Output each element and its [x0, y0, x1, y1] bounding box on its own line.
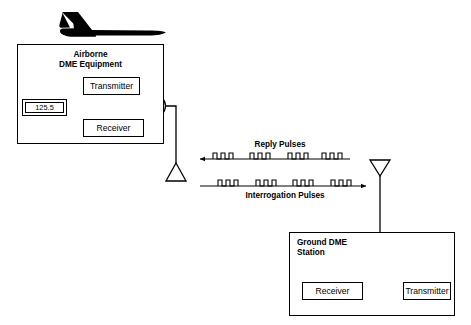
ground-receiver-label: Receiver [303, 286, 362, 296]
frequency-display[interactable]: 125.5 [22, 99, 67, 116]
ground-unit-title-line2: Station [297, 248, 325, 257]
airborne-transmitter-label: Transmitter [84, 81, 139, 91]
airborne-transmitter-box[interactable]: Transmitter [83, 77, 140, 95]
interrogation-pulse-train [200, 180, 366, 186]
ground-receiver-box[interactable]: Receiver [302, 282, 363, 300]
ground-transmitter-label: Transmitter [404, 286, 450, 296]
frequency-display-inner: 125.5 [25, 102, 64, 113]
dme-diagram-canvas: AirborneDME Equipment Transmitter Receiv… [0, 0, 471, 325]
interrogation-pulses-label: Interrogation Pulses [205, 191, 365, 201]
airborne-unit-title-line1: Airborne [73, 50, 107, 59]
airborne-unit-title-line2: DME Equipment [59, 60, 122, 69]
ground-unit-title-line1: Ground DME [297, 238, 347, 247]
reply-pulse-train [200, 153, 350, 159]
ground-unit-title: Ground DMEStation [297, 238, 417, 257]
frequency-display-value: 125.5 [26, 103, 63, 112]
reply-pulses-label: Reply Pulses [215, 140, 345, 150]
ground-transmitter-box[interactable]: Transmitter [403, 282, 451, 300]
airplane-icon [59, 12, 166, 37]
airborne-antenna-icon [166, 163, 186, 181]
airborne-receiver-box[interactable]: Receiver [83, 119, 144, 137]
airborne-receiver-label: Receiver [84, 123, 143, 133]
airborne-unit-title: AirborneDME Equipment [17, 50, 164, 69]
